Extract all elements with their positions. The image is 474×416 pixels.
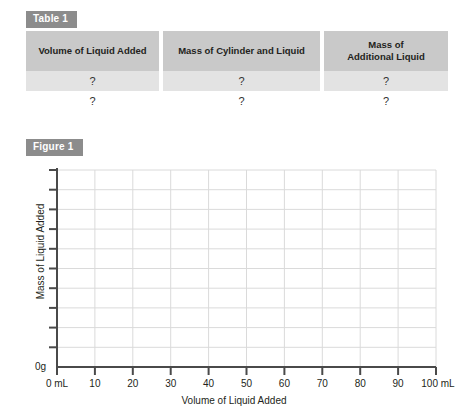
x-tick-label: 10 [89, 378, 101, 389]
column-header-line-2: Additional Liquid [347, 51, 425, 62]
chart-plot-area: 0g 0 mL 10 20 30 40 50 60 70 80 90 100 m… [26, 154, 456, 408]
x-tick-label: 100 mL [421, 378, 455, 389]
x-tick-label: 0 mL [46, 378, 69, 389]
table-header-row: Volume of Liquid Added Mass of Cylinder … [26, 31, 448, 71]
table-cell[interactable]: ? [324, 91, 448, 111]
table-cell[interactable]: ? [26, 71, 159, 91]
table-cell[interactable]: ? [163, 71, 320, 91]
y-axis-ticks [49, 170, 57, 347]
x-tick-label: 20 [127, 378, 139, 389]
table-1-block: Table 1 Volume of Liquid Added Mass of C… [26, 8, 448, 111]
table-cell[interactable]: ? [26, 91, 159, 111]
table-cell[interactable]: ? [163, 91, 320, 111]
y-axis-origin-label: 0g [35, 361, 46, 372]
x-tick-label: 90 [393, 378, 405, 389]
x-tick-label: 50 [241, 378, 253, 389]
y-axis-title: Mass of Liquid Added [35, 172, 46, 332]
column-header-mass-of-cylinder-and-liquid: Mass of Cylinder and Liquid [163, 31, 320, 71]
x-axis-title: Volume of Liquid Added [26, 395, 442, 406]
table-row: ? ? ? [26, 71, 448, 91]
x-axis-ticks [57, 367, 436, 375]
table-row: ? ? ? [26, 91, 448, 111]
table-1-tab-label: Table 1 [26, 11, 77, 28]
figure-1-block: Figure 1 [26, 136, 456, 408]
x-tick-label: 70 [317, 378, 329, 389]
chart-svg: 0g 0 mL 10 20 30 40 50 60 70 80 90 100 m… [26, 154, 456, 408]
column-header-volume-of-liquid-added: Volume of Liquid Added [26, 31, 159, 71]
data-table: Volume of Liquid Added Mass of Cylinder … [26, 31, 448, 111]
x-tick-label: 40 [203, 378, 215, 389]
x-tick-label: 30 [165, 378, 177, 389]
table-cell[interactable]: ? [324, 71, 448, 91]
x-tick-label: 60 [279, 378, 291, 389]
column-header-line-1: Mass of [368, 39, 403, 50]
column-header-mass-of-additional-liquid: Mass of Additional Liquid [324, 31, 448, 71]
x-axis-tick-labels: 0 mL 10 20 30 40 50 60 70 80 90 100 mL [46, 378, 455, 389]
x-tick-label: 80 [355, 378, 367, 389]
